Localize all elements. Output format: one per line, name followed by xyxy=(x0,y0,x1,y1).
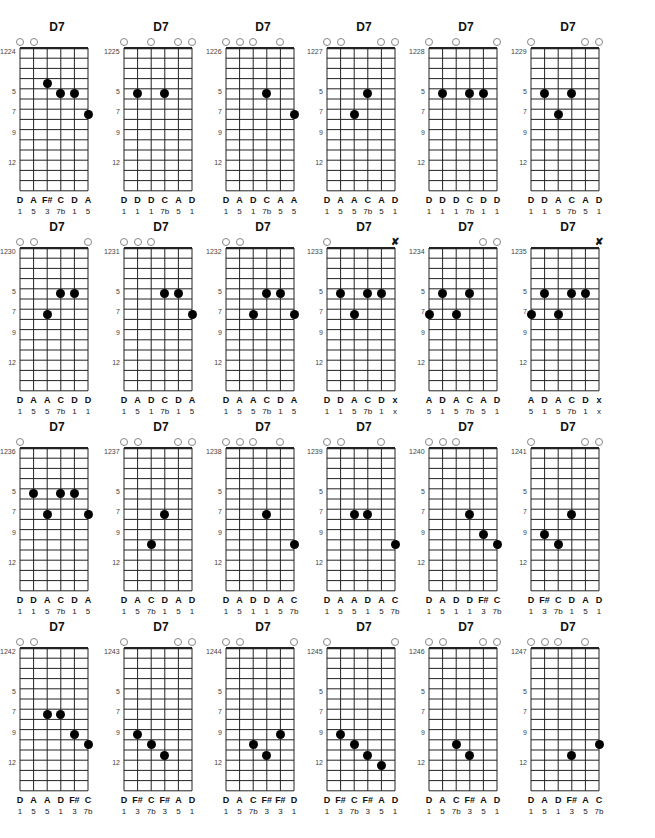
muted-string-icon: ✘ xyxy=(595,237,603,247)
string-note-label: D xyxy=(13,795,27,805)
fret-number-label: 7 xyxy=(104,508,120,515)
fret-number-label: 12 xyxy=(104,759,120,766)
string-note-label: A xyxy=(449,395,463,405)
chord-diagram: D7123857912D1A5D1D1A5C7b xyxy=(206,420,306,620)
string-degree-label: 7b xyxy=(144,607,158,616)
string-note-label: D xyxy=(320,595,334,605)
string-degree-label: 7b xyxy=(565,407,579,416)
chord-number: 1239 xyxy=(307,448,323,455)
string-degree-label: 3 xyxy=(67,807,81,816)
string-note-label: D xyxy=(27,595,41,605)
fret-number-label: 12 xyxy=(409,159,425,166)
string-note-label: C xyxy=(463,395,477,405)
string-degree-label: 3 xyxy=(131,807,145,816)
string-note-label: D xyxy=(273,395,287,405)
string-degree-label: 5 xyxy=(27,407,41,416)
string-note-label: A xyxy=(347,195,361,205)
string-degree-label: 5 xyxy=(334,607,348,616)
fret-number-label: 7 xyxy=(307,308,323,315)
string-degree-label: 7b xyxy=(54,607,68,616)
open-string-icon xyxy=(16,438,24,446)
finger-position-dot xyxy=(188,310,197,319)
fret-number-label: 12 xyxy=(307,359,323,366)
fret-number-label: 12 xyxy=(511,759,527,766)
fret-number-label: 9 xyxy=(206,329,222,336)
string-degree-label: 5 xyxy=(287,207,301,216)
open-string-icon xyxy=(236,38,244,46)
chord-name: D7 xyxy=(0,420,100,434)
string-degree-label: 5 xyxy=(436,607,450,616)
fretboard-grid xyxy=(225,247,295,392)
open-string-icon xyxy=(174,438,182,446)
fret-number-label: 9 xyxy=(409,529,425,536)
string-degree-label: 1 xyxy=(388,207,402,216)
string-degree-label: 7b xyxy=(81,807,95,816)
string-degree-label: 1 xyxy=(81,407,95,416)
string-note-label: D xyxy=(131,195,145,205)
open-string-icon xyxy=(174,638,182,646)
open-string-icon xyxy=(479,638,487,646)
string-note-label: A xyxy=(578,195,592,205)
string-note-label: D xyxy=(592,195,606,205)
fret-number-label: 9 xyxy=(206,729,222,736)
string-degree-label: 1 xyxy=(246,607,260,616)
fretboard-grid xyxy=(530,647,600,792)
string-degree-label: 1 xyxy=(320,207,334,216)
string-degree-label: 3 xyxy=(476,607,490,616)
string-note-label: D xyxy=(436,395,450,405)
string-note-label: D xyxy=(81,395,95,405)
open-string-icon xyxy=(493,238,501,246)
fret-number-label: 7 xyxy=(206,508,222,515)
fret-number-label: 5 xyxy=(409,288,425,295)
string-degree-label: 1 xyxy=(219,207,233,216)
string-degree-label: 1 xyxy=(273,407,287,416)
finger-position-dot xyxy=(43,710,52,719)
open-string-icon xyxy=(16,38,24,46)
string-note-label: A xyxy=(40,595,54,605)
string-degree-label: 1 xyxy=(320,807,334,816)
string-degree-label: 1 xyxy=(27,607,41,616)
string-note-label: A xyxy=(374,195,388,205)
fretboard-grid xyxy=(428,447,498,592)
open-string-icon xyxy=(222,438,230,446)
string-degree-label: 7b xyxy=(260,407,274,416)
fret-number-label: 12 xyxy=(104,159,120,166)
fret-number-label: 9 xyxy=(307,729,323,736)
string-note-label: A xyxy=(131,395,145,405)
open-string-icon xyxy=(323,638,331,646)
fret-number-label: 9 xyxy=(206,129,222,136)
fret-number-label: 7 xyxy=(307,508,323,515)
string-note-label: D xyxy=(171,395,185,405)
string-degree-label: x xyxy=(388,407,402,416)
open-string-icon xyxy=(377,38,385,46)
string-degree-label: 1 xyxy=(13,607,27,616)
string-degree-label: 5 xyxy=(347,207,361,216)
fret-number-label: 12 xyxy=(409,559,425,566)
fret-number-label: 12 xyxy=(206,159,222,166)
fret-number-label: 9 xyxy=(0,129,16,136)
fret-number-label: 5 xyxy=(409,488,425,495)
string-degree-label: 1 xyxy=(422,607,436,616)
fret-number-label: 7 xyxy=(409,708,425,715)
finger-position-dot xyxy=(527,310,536,319)
string-note-label: D xyxy=(117,195,131,205)
open-string-icon xyxy=(554,638,562,646)
finger-position-dot xyxy=(160,751,169,760)
string-note-label: C xyxy=(54,195,68,205)
chord-name: D7 xyxy=(307,20,407,34)
fret-number-label: 7 xyxy=(206,708,222,715)
string-degree-label: 1 xyxy=(13,207,27,216)
string-degree-label: 7b xyxy=(347,807,361,816)
chord-number: 1246 xyxy=(409,648,425,655)
fret-number-label: 12 xyxy=(0,759,16,766)
string-degree-label: 5 xyxy=(27,207,41,216)
chord-number: 1235 xyxy=(511,248,527,255)
string-note-label: A xyxy=(27,395,41,405)
string-note-label: C xyxy=(551,595,565,605)
fret-number-label: 5 xyxy=(206,288,222,295)
chord-number: 1241 xyxy=(511,448,527,455)
string-note-label: A xyxy=(374,595,388,605)
fret-number-label: 7 xyxy=(409,308,425,315)
string-degree-label: 1 xyxy=(361,607,375,616)
open-string-icon xyxy=(120,38,128,46)
